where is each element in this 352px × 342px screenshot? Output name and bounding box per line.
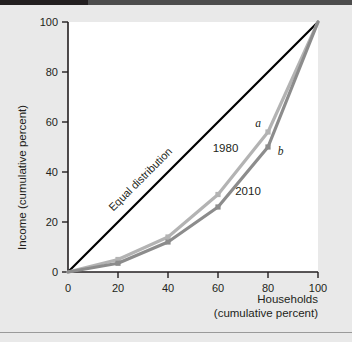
data-point-marker <box>265 129 270 134</box>
annotation-1980: 1980 <box>213 142 239 154</box>
x-tick-label: 20 <box>112 282 124 294</box>
x-axis-ticks: 020406080100 <box>65 272 327 294</box>
data-point-marker <box>215 192 220 197</box>
annotation-a: a <box>255 117 261 129</box>
x-tick-label: 60 <box>212 282 224 294</box>
data-point-marker <box>265 144 270 149</box>
figure-container: 020406080100 020406080100 Equal distribu… <box>0 0 352 342</box>
y-tick-label: 100 <box>40 16 58 28</box>
y-tick-label: 80 <box>46 66 58 78</box>
y-tick-label: 20 <box>46 216 58 228</box>
data-point-marker <box>165 239 170 244</box>
data-point-marker <box>215 204 220 209</box>
annotation-b: b <box>278 145 284 157</box>
y-tick-label: 0 <box>52 266 58 278</box>
y-axis-title: Income (cumulative percent) <box>16 105 28 250</box>
x-axis-title-line2: (cumulative percent) <box>214 307 318 319</box>
y-tick-label: 60 <box>46 116 58 128</box>
y-tick-label: 40 <box>46 166 58 178</box>
x-axis-title-line1: Households <box>257 293 318 305</box>
x-tick-label: 40 <box>162 282 174 294</box>
y-axis-ticks: 020406080100 <box>40 16 68 278</box>
x-tick-label: 0 <box>65 282 71 294</box>
annotation-2010: 2010 <box>235 185 261 197</box>
lorenz-curve-chart: 020406080100 020406080100 Equal distribu… <box>0 0 352 342</box>
data-point-marker <box>115 261 120 266</box>
